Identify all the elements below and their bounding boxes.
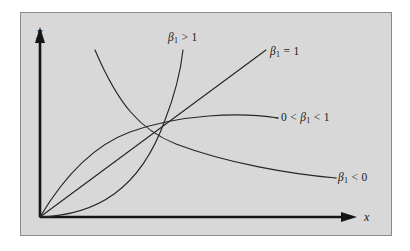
- label-beta-greater-than-1: β1 > 1: [168, 32, 198, 44]
- x-axis-label: x: [364, 211, 369, 223]
- beta-subscript: 1: [174, 36, 178, 45]
- beta-subscript: 1: [306, 116, 310, 125]
- y-axis-label: y: [37, 26, 42, 38]
- label-beta-equals-1: β1 = 1: [270, 46, 300, 58]
- prefix-text: 0 <: [281, 111, 300, 123]
- curve-beta-greater-than-1: [40, 50, 183, 217]
- label-beta-less-than-0: β1 < 0: [338, 172, 368, 184]
- figure-container: β1 > 1 β1 = 1 0 < β1 < 1 β1 < 0 y x: [0, 0, 410, 251]
- beta-subscript: 1: [344, 176, 348, 185]
- relation-text: < 0: [348, 171, 367, 183]
- arrow-right-icon: [341, 212, 357, 222]
- relation-text: < 1: [311, 111, 330, 123]
- plot-canvas: [0, 0, 410, 251]
- relation-text: = 1: [280, 45, 299, 57]
- curve-beta-equals-1: [40, 50, 266, 217]
- relation-text: > 1: [178, 31, 197, 43]
- curve-beta-between-0-and-1: [40, 115, 278, 217]
- label-beta-between-0-and-1: 0 < β1 < 1: [281, 112, 330, 124]
- beta-subscript: 1: [276, 50, 280, 59]
